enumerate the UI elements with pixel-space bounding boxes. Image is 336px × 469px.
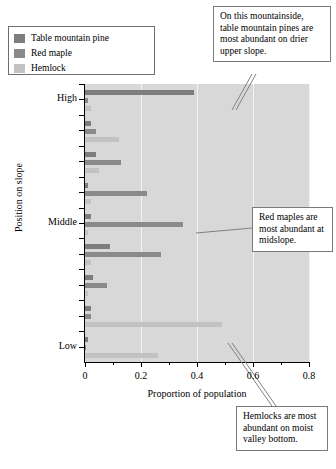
chart-figure: Table mountain pine Red maple Hemlock Pr… bbox=[0, 0, 336, 469]
x-tick bbox=[253, 362, 254, 367]
y-tick-label: Low bbox=[17, 340, 77, 351]
y-tick-minor bbox=[79, 347, 84, 348]
y-tick bbox=[79, 115, 84, 116]
y-tick-minor bbox=[79, 285, 84, 286]
x-tick-label: 0.8 bbox=[294, 370, 324, 381]
y-tick bbox=[79, 331, 84, 332]
x-tick-minor bbox=[281, 362, 282, 365]
x-tick-label: 0 bbox=[70, 370, 100, 381]
y-tick bbox=[79, 208, 84, 209]
annotation-leader-lines bbox=[0, 0, 336, 469]
y-tick-minor bbox=[79, 161, 84, 162]
x-tick-label: 0.2 bbox=[126, 370, 156, 381]
y-tick-minor bbox=[79, 192, 84, 193]
x-tick bbox=[141, 362, 142, 367]
x-tick-minor bbox=[225, 362, 226, 365]
y-tick bbox=[79, 146, 84, 147]
y-tick-minor bbox=[79, 223, 84, 224]
y-tick-label: High bbox=[17, 92, 77, 103]
y-tick bbox=[79, 269, 84, 270]
y-tick bbox=[79, 238, 84, 239]
x-tick bbox=[85, 362, 86, 367]
y-tick-label: Middle bbox=[17, 216, 77, 227]
x-tick-minor bbox=[113, 362, 114, 365]
x-tick-minor bbox=[169, 362, 170, 365]
y-tick-minor bbox=[79, 254, 84, 255]
y-tick bbox=[79, 177, 84, 178]
x-tick bbox=[197, 362, 198, 367]
x-tick-label: 0.4 bbox=[182, 370, 212, 381]
y-tick-minor bbox=[79, 316, 84, 317]
x-tick bbox=[309, 362, 310, 367]
y-tick-minor bbox=[79, 99, 84, 100]
y-tick-minor bbox=[79, 130, 84, 131]
y-tick bbox=[79, 300, 84, 301]
y-tick bbox=[79, 84, 84, 85]
x-tick-label: 0.6 bbox=[238, 370, 268, 381]
